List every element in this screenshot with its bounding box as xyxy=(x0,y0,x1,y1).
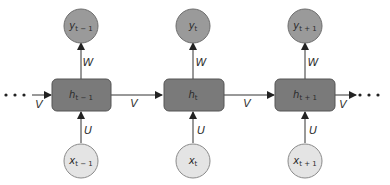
output-label-t-plus-1: yt + 1 xyxy=(293,21,316,33)
v-label-out: V xyxy=(339,99,347,110)
hidden-label-t-plus-1: ht + 1 xyxy=(293,90,317,102)
input-label-t-minus-1: xt − 1 xyxy=(69,156,92,168)
v-label-1: V xyxy=(130,98,138,109)
ellipsis-left xyxy=(4,93,25,96)
v-label-in: V xyxy=(35,99,43,110)
w-label-2: W xyxy=(196,57,207,68)
u-label-2: U xyxy=(197,125,205,136)
v-label-2: V xyxy=(243,98,251,109)
ellipsis-right xyxy=(358,93,379,96)
u-label-3: U xyxy=(309,125,317,136)
input-label-t: xt xyxy=(189,156,198,168)
input-label-t-plus-1: xt + 1 xyxy=(293,156,316,168)
w-label-3: W xyxy=(308,57,319,68)
w-label-1: W xyxy=(83,57,94,68)
output-label-t: yt xyxy=(189,21,198,33)
u-label-1: U xyxy=(84,125,92,136)
output-label-t-minus-1: yt − 1 xyxy=(69,21,92,33)
rnn-diagram: yt − 1 ht − 1 xt − 1 W U yt ht xt W U yt… xyxy=(0,0,390,185)
hidden-label-t-minus-1: ht − 1 xyxy=(69,90,93,102)
hidden-label-t: ht xyxy=(188,90,197,102)
